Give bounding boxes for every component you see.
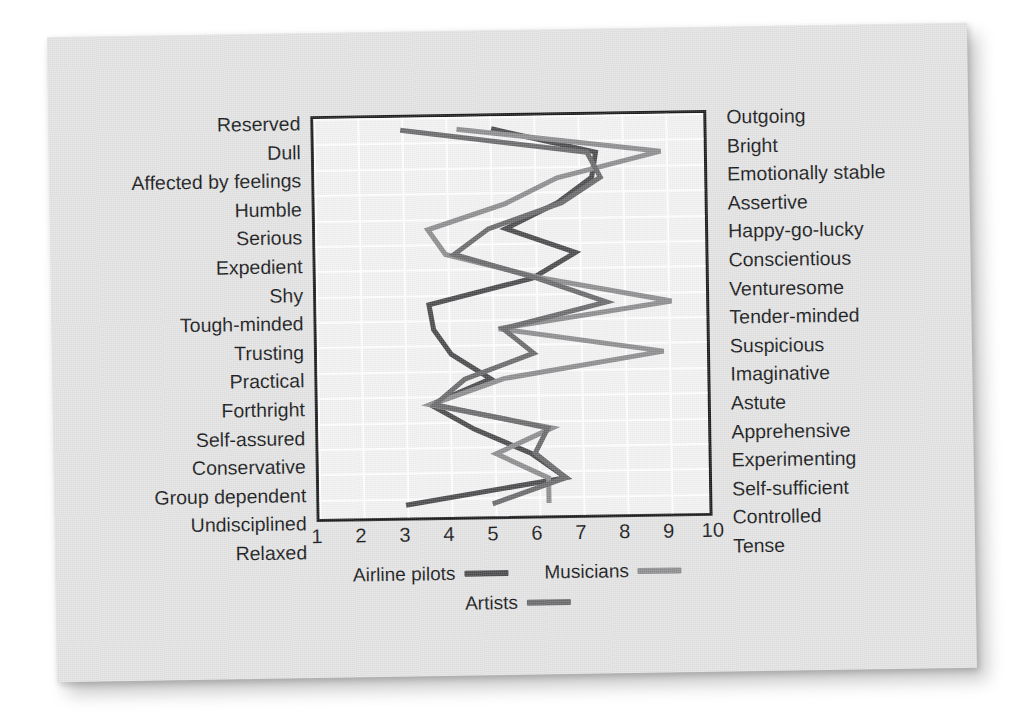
right-trait-label: Suspicious	[730, 327, 980, 360]
legend-label: Airline pilots	[353, 563, 456, 587]
x-tick-label: 7	[575, 521, 586, 544]
left-trait-label: Self-assured	[53, 424, 305, 457]
right-trait-label: Self-sufficient	[732, 470, 982, 503]
right-trait-label: Happy-go-lucky	[728, 213, 978, 246]
left-trait-labels: ReservedDullAffected by feelingsHumbleSe…	[48, 109, 307, 570]
plot-area	[310, 110, 712, 522]
right-trait-label: Apprehensive	[731, 413, 981, 446]
x-tick-label: 6	[531, 522, 542, 545]
right-trait-label: Venturesome	[729, 270, 979, 303]
series-lines	[313, 113, 709, 519]
right-trait-label: Bright	[727, 127, 977, 160]
legend-color-swatch	[527, 599, 571, 606]
screenshot-root: ReservedDullAffected by feelingsHumbleSe…	[0, 0, 1033, 725]
chart-card: ReservedDullAffected by feelingsHumbleSe…	[47, 23, 977, 682]
legend-row: Artists	[318, 585, 718, 621]
legend-label: Artists	[465, 592, 518, 615]
left-trait-label: Shy	[51, 281, 303, 314]
x-tick-label: 4	[443, 523, 454, 546]
left-trait-label: Dull	[49, 138, 301, 171]
left-trait-label: Reserved	[48, 109, 300, 142]
left-trait-label: Humble	[50, 195, 302, 228]
left-trait-label: Undisciplined	[54, 510, 306, 543]
right-trait-label: Controlled	[732, 499, 982, 532]
x-tick-label: 8	[619, 520, 630, 543]
right-trait-labels: OutgoingBrightEmotionally stableAssertiv…	[726, 99, 983, 560]
left-trait-label: Group dependent	[54, 481, 306, 514]
x-tick-label: 1	[311, 525, 322, 548]
right-trait-label: Tender-minded	[729, 299, 979, 332]
right-trait-label: Emotionally stable	[727, 156, 977, 189]
left-trait-label: Trusting	[52, 338, 304, 371]
right-trait-label: Assertive	[727, 184, 977, 217]
left-trait-label: Forthright	[53, 395, 305, 428]
x-axis-ticks: 12345678910	[317, 519, 713, 555]
legend-item[interactable]: Musicians	[544, 559, 682, 583]
x-tick-label: 5	[487, 522, 498, 545]
right-trait-label: Astute	[731, 385, 981, 418]
left-trait-label: Practical	[52, 367, 304, 400]
profile-chart-figure: ReservedDullAffected by feelingsHumbleSe…	[47, 23, 977, 682]
right-trait-label: Tense	[733, 528, 983, 561]
left-trait-label: Affected by feelings	[49, 166, 301, 199]
left-trait-label: Tough-minded	[51, 309, 303, 342]
x-tick-label: 9	[663, 519, 674, 542]
legend-color-swatch	[638, 567, 682, 574]
left-trait-label: Serious	[50, 224, 302, 257]
legend-color-swatch	[464, 570, 508, 577]
x-tick-label: 2	[355, 524, 366, 547]
left-trait-label: Relaxed	[55, 538, 307, 571]
left-trait-label: Expedient	[50, 252, 302, 285]
x-tick-label: 10	[702, 519, 725, 542]
right-trait-label: Imaginative	[730, 356, 980, 389]
right-trait-label: Experimenting	[731, 442, 981, 475]
legend-label: Musicians	[544, 560, 629, 583]
legend-item[interactable]: Airline pilots	[353, 562, 509, 586]
x-tick-label: 3	[399, 524, 410, 547]
right-trait-label: Outgoing	[726, 99, 976, 132]
right-trait-label: Conscientious	[728, 242, 978, 275]
legend-item[interactable]: Artists	[465, 591, 571, 615]
chart-legend: Airline pilotsMusiciansArtists	[317, 555, 718, 621]
left-trait-label: Conservative	[54, 452, 306, 485]
